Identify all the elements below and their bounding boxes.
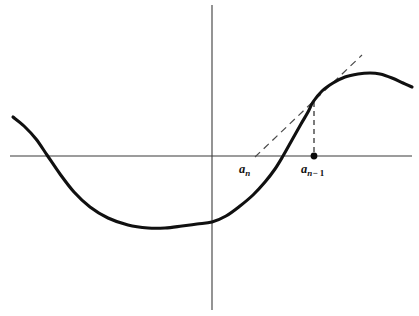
figure-canvas xyxy=(0,0,419,316)
label-subscript-operator: − 1 xyxy=(312,168,324,178)
newtons-method-figure: an an− 1 xyxy=(0,0,419,316)
root-dot-marker xyxy=(311,153,318,160)
tangent-line xyxy=(255,55,362,157)
label-a-n-subscript: n xyxy=(245,168,250,178)
label-a-n-minus-1: an− 1 xyxy=(301,163,324,178)
label-a-n: an xyxy=(239,163,250,178)
label-a-n-minus-1-subscript: n− 1 xyxy=(307,168,324,178)
